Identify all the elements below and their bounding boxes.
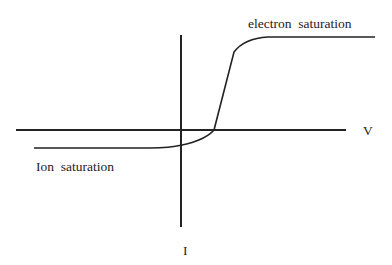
ion-saturation-label: Ion saturation — [36, 160, 114, 174]
i-axis-label: I — [183, 244, 188, 258]
iv-curve-diagram — [0, 0, 392, 265]
electron-saturation-label: electron saturation — [248, 17, 351, 31]
iv-curve — [34, 37, 375, 148]
v-axis-label: V — [363, 124, 373, 138]
